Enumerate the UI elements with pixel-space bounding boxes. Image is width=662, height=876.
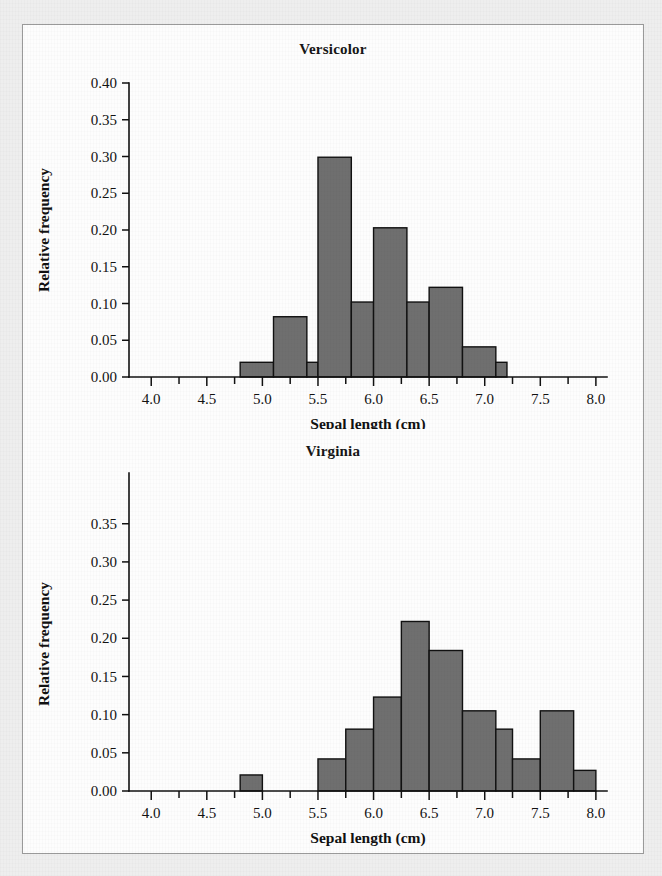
x-tick-label: 7.5: [531, 391, 550, 407]
y-tick-label: 0.30: [91, 149, 117, 165]
plot-area-versicolor: 0.000.050.100.150.200.250.300.350.404.04…: [23, 29, 643, 429]
y-tick-label: 0.25: [91, 592, 117, 608]
y-tick-label: 0.05: [91, 745, 117, 761]
histogram-bar: [274, 317, 307, 377]
histogram-bar: [374, 697, 402, 791]
y-tick-label: 0.00: [91, 783, 117, 799]
histogram-bar: [407, 302, 429, 377]
histogram-bar: [574, 770, 596, 791]
y-tick-label: 0.15: [91, 669, 117, 685]
x-tick-label: 4.0: [142, 391, 161, 407]
y-tick-label: 0.10: [91, 296, 117, 312]
x-tick-label: 7.0: [475, 391, 494, 407]
x-tick-label: 7.5: [531, 805, 550, 821]
histogram-bar: [401, 621, 429, 791]
x-tick-label: 4.0: [142, 805, 161, 821]
y-tick-label: 0.30: [91, 554, 117, 570]
histogram-bar: [429, 287, 462, 377]
x-axis-label: Sepal length (cm): [310, 829, 425, 847]
y-tick-label: 0.15: [91, 259, 117, 275]
x-tick-label: 8.0: [587, 805, 606, 821]
y-tick-label: 0.25: [91, 185, 117, 201]
chart-versicolor: Versicolor 0.000.050.100.150.200.250.300…: [23, 29, 643, 429]
histogram-bar: [240, 775, 262, 791]
x-tick-label: 5.0: [253, 805, 272, 821]
histogram-bar: [240, 362, 273, 377]
histogram-bar: [429, 650, 462, 791]
y-tick-label: 0.10: [91, 707, 117, 723]
y-tick-label: 0.35: [91, 516, 117, 532]
y-tick-label: 0.05: [91, 332, 117, 348]
y-tick-label: 0.00: [91, 369, 117, 385]
histogram-bar: [462, 711, 495, 791]
y-axis-label: Relative frequency: [35, 168, 52, 292]
histogram-bar: [351, 302, 373, 377]
figure-panel: Versicolor 0.000.050.100.150.200.250.300…: [22, 24, 644, 854]
histogram-bar: [496, 729, 513, 791]
x-tick-label: 6.0: [364, 391, 383, 407]
histogram-bar: [374, 228, 407, 377]
y-tick-label: 0.20: [91, 222, 117, 238]
histogram-bar: [496, 362, 507, 377]
figure-page: Versicolor 0.000.050.100.150.200.250.300…: [0, 0, 662, 876]
x-tick-label: 5.5: [309, 391, 328, 407]
histogram-bar: [307, 362, 318, 377]
x-tick-label: 5.5: [309, 805, 328, 821]
y-tick-label: 0.20: [91, 630, 117, 646]
x-tick-label: 4.5: [197, 391, 216, 407]
histogram-bar: [462, 347, 495, 377]
chart-virginia: Virginia 0.000.050.100.150.200.250.300.3…: [23, 429, 643, 853]
x-tick-label: 6.5: [420, 391, 439, 407]
histogram-bar: [318, 157, 351, 377]
y-axis-label: Relative frequency: [35, 582, 52, 706]
x-tick-label: 6.5: [420, 805, 439, 821]
histogram-bar: [513, 759, 541, 791]
x-tick-label: 7.0: [475, 805, 494, 821]
x-tick-label: 6.0: [364, 805, 383, 821]
x-tick-label: 4.5: [197, 805, 216, 821]
plot-area-virginia: 0.000.050.100.150.200.250.300.354.04.55.…: [23, 429, 643, 853]
histogram-bar: [318, 759, 346, 791]
y-tick-label: 0.40: [91, 75, 117, 91]
x-axis-label: Sepal length (cm): [310, 415, 425, 429]
histogram-bar: [346, 729, 374, 791]
bars-group: [240, 621, 596, 791]
histogram-bar: [540, 711, 573, 791]
y-tick-label: 0.35: [91, 112, 117, 128]
x-tick-label: 5.0: [253, 391, 272, 407]
x-tick-label: 8.0: [587, 391, 606, 407]
bars-group: [240, 157, 507, 377]
